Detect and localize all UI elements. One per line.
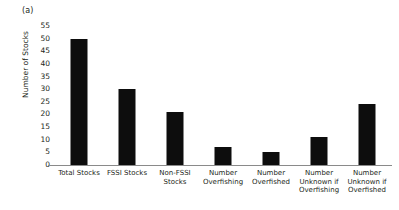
plot-area <box>55 26 391 165</box>
bar[interactable] <box>263 152 280 165</box>
x-tick-label: Non-FSSIStocks <box>151 169 199 186</box>
x-tick-label: NumberUnknown ifOverfishing <box>295 169 343 195</box>
x-axis-line <box>51 165 392 166</box>
bar-slot <box>295 26 343 165</box>
bar[interactable] <box>311 137 328 165</box>
y-tick-label: 10 <box>40 136 50 144</box>
y-tick-label: 55 <box>40 22 50 30</box>
panel-label: (a) <box>22 6 33 15</box>
x-tick-label: NumberUnknown ifOverfished <box>343 169 391 195</box>
bar-slot <box>247 26 295 165</box>
x-tick-label: FSSI Stocks <box>103 169 151 178</box>
x-axis-tick-labels: Total StocksFSSI StocksNon-FSSIStocksNum… <box>55 169 391 209</box>
bar[interactable] <box>359 104 376 165</box>
y-tick-label: 5 <box>45 149 50 157</box>
x-tick-label: Total Stocks <box>55 169 103 178</box>
y-tick-label: 30 <box>40 85 50 93</box>
y-tick-label: 40 <box>40 60 50 68</box>
bar-slot <box>343 26 391 165</box>
bar-slot <box>103 26 151 165</box>
bar-slot <box>199 26 247 165</box>
y-tick-label: 25 <box>40 98 50 106</box>
y-tick-label: 45 <box>40 48 50 56</box>
y-tick-label: 20 <box>40 111 50 119</box>
y-tick-label: 50 <box>40 35 50 43</box>
bar[interactable] <box>215 147 232 165</box>
x-tick-label: NumberOverfishing <box>199 169 247 186</box>
x-tick-label: NumberOverfished <box>247 169 295 186</box>
figure-panel-a: (a) Number of Stocks 0510152025303540455… <box>0 0 399 210</box>
bar-slot <box>55 26 103 165</box>
bar[interactable] <box>71 39 88 165</box>
y-tick-label: 15 <box>40 123 50 131</box>
bar-slot <box>151 26 199 165</box>
y-axis-tick-labels: 0510152025303540455055 <box>28 26 50 165</box>
y-tick-label: 35 <box>40 73 50 81</box>
bar[interactable] <box>119 89 136 165</box>
bar[interactable] <box>167 112 184 165</box>
